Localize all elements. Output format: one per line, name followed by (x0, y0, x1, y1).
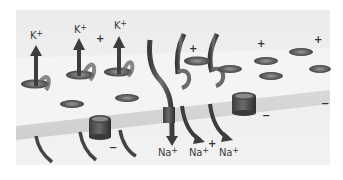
cylinder-channel-3 (232, 92, 256, 116)
plus-sign: + (257, 39, 265, 49)
cylinder-channel-2 (163, 107, 175, 123)
cylinder-channel-1 (89, 115, 111, 140)
plus-sign: + (96, 34, 104, 44)
na-ion-label-3: Na+ (219, 146, 239, 158)
minus-sign: − (262, 111, 270, 121)
na-ion-label-1: Na+ (158, 146, 178, 158)
plus-sign: + (208, 139, 216, 149)
plus-sign: + (314, 35, 322, 45)
plus-sign: + (189, 44, 197, 54)
minus-sign: − (109, 143, 117, 153)
k-ion-label-2: K+ (74, 23, 87, 35)
na-ion-label-2: Na+ (189, 146, 209, 158)
minus-sign: − (321, 99, 329, 109)
k-ion-label-1: K+ (30, 29, 43, 41)
k-ion-label-3: K+ (114, 19, 127, 31)
membrane-diagram: K+ K+ K+ Na+ Na+ Na+ + + + + + − − − (0, 0, 343, 180)
